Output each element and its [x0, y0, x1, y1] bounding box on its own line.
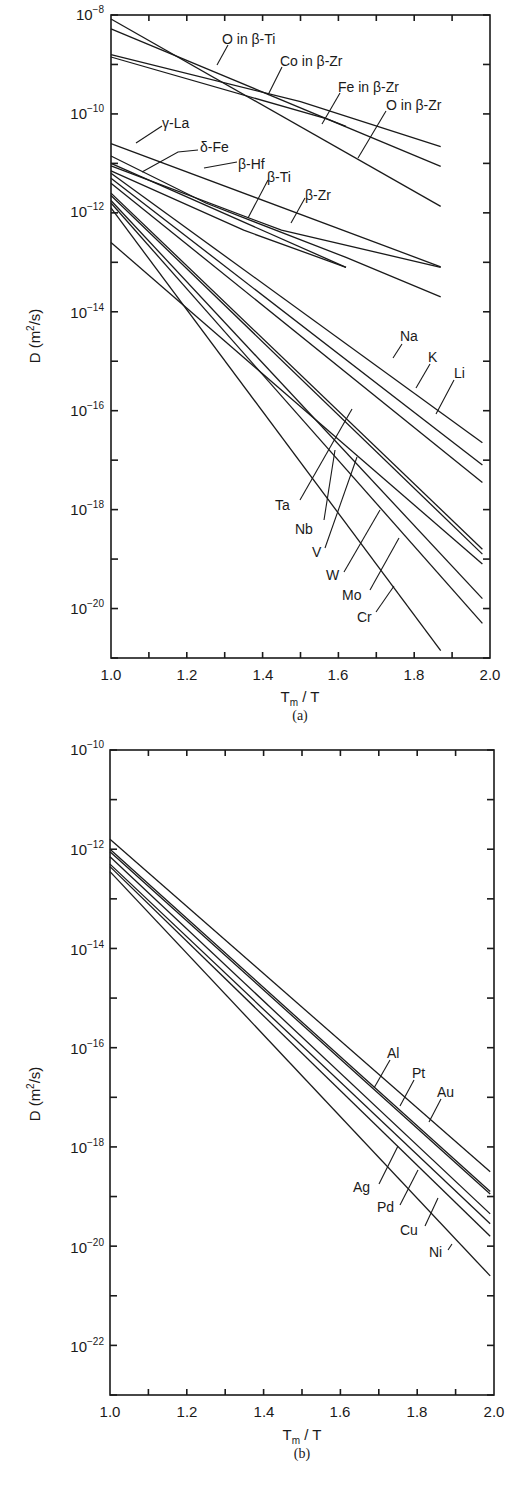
chart-b-y-axis-title: D (m2/s) — [25, 1067, 43, 1122]
series-line-k — [111, 178, 482, 465]
leader-line — [217, 45, 228, 65]
chart-a-y-tick-labels: 10−8 10−10 10−12 10−14 10−16 10−18 10−20 — [70, 4, 104, 617]
chart-b-series — [110, 839, 490, 1276]
leader-line — [393, 344, 402, 358]
leader-line — [370, 538, 399, 590]
series-label-li: Li — [454, 365, 465, 381]
series-label-ni: Ni — [429, 1244, 442, 1260]
leader-line — [204, 162, 237, 168]
series-line-ag — [110, 857, 490, 1214]
xtick-label: 1.2 — [177, 1403, 198, 1420]
ytick-label: 10−14 — [70, 939, 104, 958]
leader-line — [322, 93, 340, 124]
xtick-label: 1.6 — [330, 1403, 351, 1420]
series-line-pd — [110, 864, 490, 1224]
ytick-label: 10−12 — [70, 839, 104, 858]
series-label-k: K — [428, 349, 438, 365]
leader-line — [425, 1198, 438, 1226]
leader-line — [374, 1060, 390, 1088]
series-label-delta-fe: δ-Fe — [200, 139, 229, 155]
ytick-label: 10−20 — [70, 1237, 104, 1256]
ytick-label: 10−18 — [70, 499, 104, 518]
leader-line — [142, 150, 198, 172]
leader-line — [358, 111, 386, 158]
series-line-nb — [111, 193, 482, 549]
xtick-label: 1.0 — [101, 666, 122, 683]
series-label-o-in-beta-ti: O in β-Ti — [222, 31, 275, 47]
series-label-o-in-beta-zr: O in β-Zr — [386, 97, 442, 113]
ytick-label: 10−16 — [70, 400, 104, 419]
leader-line — [376, 586, 394, 612]
chart-b-y-tick-labels: 10−10 10−12 10−14 10−16 10−18 10−20 10−2… — [70, 739, 104, 1355]
leader-line — [429, 1099, 441, 1122]
series-line-au — [110, 852, 490, 1194]
series-label-fe-in-beta-zr: Fe in β-Zr — [338, 79, 399, 95]
series-label-ta: Ta — [275, 497, 290, 513]
ytick-label: 10−16 — [70, 1038, 104, 1057]
ytick-label: 10−20 — [70, 598, 104, 617]
series-label-au: Au — [437, 1084, 454, 1100]
xtick-label: 2.0 — [484, 1403, 505, 1420]
chart-a-annotations: O in β-Ti Co in β-Zr Fe in β-Zr O in β-Z… — [136, 31, 465, 625]
chart-b: 10−10 10−12 10−14 10−16 10−18 10−20 10−2… — [25, 739, 504, 1462]
leader-line — [400, 1170, 418, 1205]
leader-line — [400, 1080, 414, 1106]
series-label-pt: Pt — [412, 1065, 425, 1081]
chart-a-y-axis-title: D (m2/s) — [25, 309, 43, 364]
chart-b-x-axis-title: Tm / T — [283, 1426, 322, 1446]
ytick-label: 10−14 — [70, 302, 104, 321]
figure: 10−8 10−10 10−12 10−14 10−16 10−18 10−20… — [0, 0, 512, 1488]
chart-a-caption: (a) — [292, 708, 308, 724]
series-line-li — [111, 183, 482, 482]
xtick-label: 1.2 — [177, 666, 198, 683]
xtick-label: 2.0 — [480, 666, 501, 683]
chart-a: 10−8 10−10 10−12 10−14 10−16 10−18 10−20… — [25, 4, 500, 724]
series-line-mo — [111, 203, 482, 623]
ytick-label: 10−8 — [76, 4, 105, 23]
series-label-mo: Mo — [342, 587, 362, 603]
ytick-label: 10−10 — [70, 739, 104, 758]
xtick-label: 1.4 — [253, 666, 274, 683]
series-line--ti — [111, 171, 346, 267]
leader-line — [268, 67, 282, 95]
chart-a-x-axis-title: Tm / T — [281, 688, 320, 708]
chart-b-y-ticks — [110, 750, 494, 1395]
series-label-beta-ti: β-Ti — [267, 169, 291, 185]
series-label-cr: Cr — [357, 609, 372, 625]
leader-line — [416, 364, 430, 388]
leader-line — [448, 1244, 452, 1250]
series-label-co-in-beta-zr: Co in β-Zr — [280, 53, 343, 69]
leader-line — [291, 198, 305, 223]
ytick-label: 10−18 — [70, 1137, 104, 1156]
ytick-label: 10−10 — [70, 103, 104, 122]
leader-line — [248, 180, 268, 218]
xtick-label: 1.8 — [407, 1403, 428, 1420]
series-line-cu — [110, 867, 490, 1237]
xtick-label: 1.6 — [328, 666, 349, 683]
series-label-al: Al — [387, 1045, 399, 1061]
chart-b-x-tick-labels: 1.0 1.2 1.4 1.6 1.8 2.0 — [100, 1403, 505, 1420]
series-line-ni — [110, 872, 490, 1276]
leader-line — [136, 126, 162, 143]
chart-a-series — [111, 19, 482, 651]
series-line-cr — [111, 208, 441, 651]
chart-b-x-ticks — [148, 750, 455, 1395]
series-label-cu: Cu — [400, 1222, 418, 1238]
ytick-label: 10−12 — [70, 201, 104, 220]
leader-line — [436, 380, 454, 414]
series-label-beta-zr: β-Zr — [305, 187, 331, 203]
ytick-label: 10−22 — [70, 1336, 104, 1355]
series-label-gamma-la: γ-La — [162, 115, 189, 131]
series-label-ag: Ag — [353, 1179, 370, 1195]
series-line-pt — [110, 849, 490, 1191]
series-label-w: W — [326, 567, 340, 583]
chart-b-caption: (b) — [294, 1446, 311, 1462]
series-label-beta-hf: β-Hf — [238, 156, 265, 172]
series-line-al — [110, 839, 490, 1171]
xtick-label: 1.4 — [254, 1403, 275, 1420]
chart-a-x-tick-labels: 1.0 1.2 1.4 1.6 1.8 2.0 — [101, 666, 501, 683]
xtick-label: 1.0 — [100, 1403, 121, 1420]
series-label-pd: Pd — [377, 1199, 394, 1215]
xtick-label: 1.8 — [404, 666, 425, 683]
chart-b-plot-frame — [110, 750, 494, 1395]
